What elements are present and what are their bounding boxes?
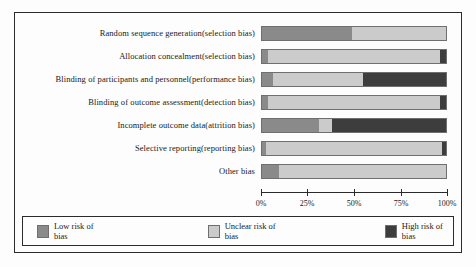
legend-label: Low risk of bias <box>54 221 104 241</box>
bar-segment-unclear <box>319 119 332 132</box>
bar-segment-low <box>262 119 319 132</box>
table-row: Blinding of participants and personnel(p… <box>20 68 450 91</box>
table-row: Blinding of outcome assessment(detection… <box>20 91 450 114</box>
bar-segment-unclear <box>273 73 363 86</box>
table-row: Selective reporting(reporting bias) <box>20 137 450 160</box>
legend-label: High risk of bias <box>402 221 453 241</box>
bar-segment-unclear <box>268 96 441 109</box>
stacked-bar <box>261 95 447 110</box>
legend-swatch-unclear-risk <box>208 225 220 238</box>
stacked-bar <box>261 164 447 179</box>
category-label: Incomplete outcome data(attrition bias) <box>20 121 261 130</box>
bar-segment-unclear <box>268 50 441 63</box>
stacked-bar <box>261 26 447 41</box>
category-label: Blinding of participants and personnel(p… <box>20 75 261 84</box>
axis-tick-label: 25% <box>300 199 315 208</box>
bar-segment-unclear <box>266 142 443 155</box>
axis-tick-label: 50% <box>347 199 362 208</box>
axis-tick-label: 0% <box>256 199 267 208</box>
bar-segment-high <box>442 142 446 155</box>
table-row: Incomplete outcome data(attrition bias) <box>20 114 450 137</box>
bar-segment-high <box>332 119 446 132</box>
axis-tick <box>307 189 308 196</box>
x-axis: 0% 25% 50% 75% 100% <box>261 192 449 214</box>
bar-segment-unclear <box>279 165 446 178</box>
axis-tick <box>447 189 448 196</box>
bar-segment-low <box>262 73 273 86</box>
category-label: Random sequence generation(selection bia… <box>20 29 261 38</box>
legend-item-low-risk: Low risk of bias <box>37 221 104 241</box>
legend-item-unclear-risk: Unclear risk of bias <box>208 221 285 241</box>
bar-segment-unclear <box>352 27 446 40</box>
stacked-bar <box>261 141 447 156</box>
bar-segment-high <box>363 73 446 86</box>
legend-item-high-risk: High risk of bias <box>385 221 453 241</box>
bar-segment-high <box>440 50 446 63</box>
axis-tick <box>261 189 262 196</box>
category-label: Selective reporting(reporting bias) <box>20 144 261 153</box>
table-row: Other bias <box>20 160 450 183</box>
bar-segment-low <box>262 165 279 178</box>
category-label: Blinding of outcome assessment(detection… <box>20 98 261 107</box>
stacked-bar <box>261 118 447 133</box>
legend-swatch-high-risk <box>385 225 397 238</box>
legend: Low risk of bias Unclear risk of bias Hi… <box>22 216 454 246</box>
table-row: Allocation concealment(selection bias) <box>20 45 450 68</box>
axis-tick-label: 100% <box>438 199 457 208</box>
axis-tick <box>401 189 402 196</box>
legend-label: Unclear risk of bias <box>225 221 285 241</box>
stacked-bar <box>261 49 447 64</box>
risk-of-bias-figure: Random sequence generation(selection bia… <box>0 0 476 267</box>
axis-tick-label: 75% <box>394 199 409 208</box>
axis-tick <box>354 189 355 196</box>
category-label: Allocation concealment(selection bias) <box>20 52 261 61</box>
bar-segment-high <box>440 96 446 109</box>
plot-area: Random sequence generation(selection bia… <box>0 0 476 267</box>
bar-segment-low <box>262 27 352 40</box>
category-label: Other bias <box>20 167 261 176</box>
stacked-bar <box>261 72 447 87</box>
legend-swatch-low-risk <box>37 225 49 238</box>
table-row: Random sequence generation(selection bia… <box>20 22 450 45</box>
